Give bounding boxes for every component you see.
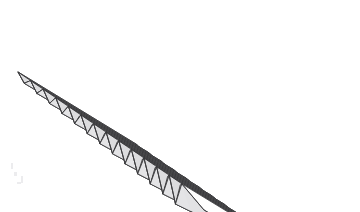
scan-artifact-3 <box>17 182 21 184</box>
pleat-group <box>18 72 322 212</box>
front-skirt-face <box>182 184 322 212</box>
ridge-crease-1 <box>31 81 149 153</box>
ridge-crease-5 <box>81 115 199 187</box>
figure-canvas <box>0 0 360 212</box>
scan-artifacts <box>11 163 23 184</box>
scan-artifact-2 <box>21 176 23 183</box>
ridge-crease-3 <box>56 98 174 170</box>
scan-artifact-0 <box>11 163 13 169</box>
pleated-sheet-drawing <box>0 0 360 212</box>
ridge-crease-2 <box>43 89 161 161</box>
ridge-crease-4 <box>68 106 186 178</box>
ridge-crease-0 <box>18 72 136 144</box>
scan-artifact-1 <box>14 172 17 176</box>
